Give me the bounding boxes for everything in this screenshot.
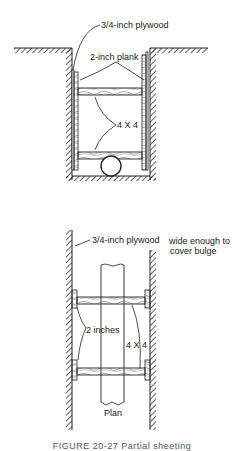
plan-strut-lower bbox=[77, 368, 145, 375]
plan-wall-right bbox=[150, 250, 156, 430]
leader-plywood bbox=[73, 25, 100, 70]
plank-right bbox=[142, 55, 146, 170]
plank-left bbox=[74, 72, 78, 170]
figure-caption: FIGURE 20-27 Partial sheeting bbox=[0, 441, 244, 451]
trench-wall-left bbox=[66, 48, 72, 180]
label-spacing: 2 inches bbox=[86, 325, 120, 335]
plan-strut-upper bbox=[77, 297, 145, 304]
section-view bbox=[14, 25, 208, 181]
trench-wall-right bbox=[150, 48, 156, 180]
ground-right-hatch bbox=[150, 48, 208, 53]
pipe bbox=[101, 156, 121, 176]
label-plywood-section: 3/4-inch plywood bbox=[101, 20, 169, 30]
label-plan: Plan bbox=[104, 408, 122, 418]
label-plywood-note-1: wide enough to bbox=[169, 236, 230, 246]
plan-wall-left bbox=[66, 230, 72, 430]
trench-bottom-hatch bbox=[66, 176, 156, 181]
label-strut-plan: 4 X 4 bbox=[126, 340, 147, 350]
strut-upper bbox=[78, 88, 142, 95]
ground-left-hatch bbox=[14, 48, 72, 53]
label-strut-section: 4 X 4 bbox=[117, 120, 138, 130]
label-plywood-plan: 3/4-inch plywood bbox=[92, 235, 160, 245]
label-plank: 2-inch plank bbox=[90, 52, 139, 62]
label-plywood-note-2: cover bulge bbox=[170, 246, 217, 256]
